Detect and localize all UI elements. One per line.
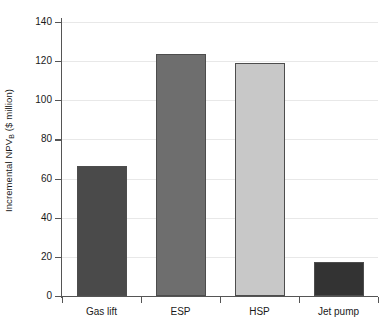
y-axis-tick [55, 22, 61, 23]
y-axis-tick [55, 139, 61, 140]
bar-esp [156, 54, 206, 296]
y-axis-tick-label: 40 [12, 213, 52, 223]
y-axis-tick-label: 80 [12, 134, 52, 144]
x-axis-label-esp: ESP [136, 306, 226, 318]
y-axis-tick-label: 140 [12, 17, 52, 27]
y-axis-tick-label: 120 [12, 56, 52, 66]
bar-gas-lift [77, 166, 127, 296]
bar-jet-pump [314, 262, 364, 296]
y-axis-tick [55, 296, 61, 297]
x-axis-label-jet-pump: Jet pump [294, 306, 384, 318]
x-axis-label-hsp: HSP [215, 306, 305, 318]
gridline [62, 22, 378, 23]
gridline [62, 139, 378, 140]
bar-chart-figure: Incremental NPVB ($ million) 02040608010… [0, 0, 388, 329]
y-axis-tick-label: 20 [12, 252, 52, 262]
y-axis-tick [55, 61, 61, 62]
y-axis-tick-label: 100 [12, 95, 52, 105]
y-axis-tick [55, 100, 61, 101]
x-axis-label-gas-lift: Gas lift [57, 306, 147, 318]
x-axis-tick [299, 297, 300, 303]
y-axis-tick-label: 60 [12, 174, 52, 184]
y-axis-tick-label: 0 [12, 291, 52, 301]
x-axis-tick [141, 297, 142, 303]
y-axis-title-text: Incremental NPVB ($ million) [4, 88, 15, 211]
gridline [62, 61, 378, 62]
x-axis-tick [378, 297, 379, 303]
y-axis-tick [55, 257, 61, 258]
bar-hsp [235, 63, 285, 296]
x-axis-tick [220, 297, 221, 303]
y-axis-tick [55, 218, 61, 219]
plot-area [62, 22, 378, 296]
gridline [62, 100, 378, 101]
x-axis-tick [62, 297, 63, 303]
y-axis-tick [55, 179, 61, 180]
